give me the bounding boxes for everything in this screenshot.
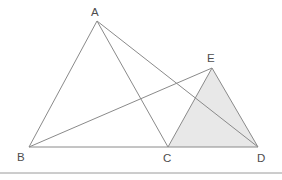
segment-ad bbox=[97, 21, 258, 147]
vertex-label-d: D bbox=[257, 152, 265, 164]
vertex-label-a: A bbox=[91, 6, 99, 18]
shaded-triangle-ced bbox=[168, 68, 258, 147]
vertex-label-c: C bbox=[163, 152, 171, 164]
segment-ac bbox=[97, 21, 168, 147]
vertex-label-b: B bbox=[17, 151, 25, 163]
segment-ab bbox=[29, 21, 97, 147]
geometry-canvas: A B C D E bbox=[0, 0, 282, 180]
geometry-figure: A B C D E bbox=[0, 0, 282, 180]
vertex-label-e: E bbox=[207, 52, 215, 64]
